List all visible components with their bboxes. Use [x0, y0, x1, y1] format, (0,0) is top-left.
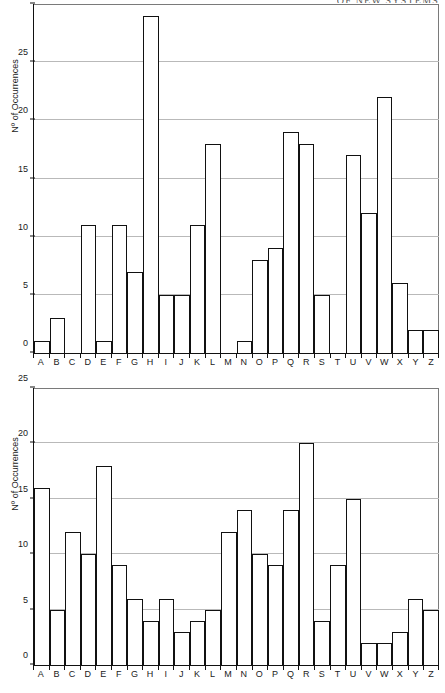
x-tick-label: O: [252, 668, 268, 680]
y-tick-label: 20: [18, 105, 28, 115]
bar-cell: [361, 4, 377, 353]
x-tick-label: J: [173, 668, 189, 680]
x-tick-label: F: [111, 668, 127, 680]
bar: [299, 144, 315, 353]
bar: [205, 610, 221, 665]
bar-cell: [299, 388, 315, 665]
bar-cell: [408, 4, 424, 353]
bar-cell: [252, 4, 268, 353]
x-tick-label: C: [64, 356, 80, 368]
x-tick-label: R: [298, 668, 314, 680]
bar-cell: [65, 4, 81, 353]
bar-cell: [81, 4, 97, 353]
bar-cell: [159, 388, 175, 665]
bar: [50, 610, 66, 665]
y-tick-label: 5: [23, 595, 28, 605]
y-tick-label: 20: [18, 428, 28, 438]
bar: [361, 213, 377, 353]
bar: [190, 225, 206, 353]
bar-series-top: [34, 4, 439, 353]
bar: [268, 248, 284, 353]
bar-cell: [423, 388, 439, 665]
bar: [127, 272, 143, 353]
x-tick-label: A: [33, 668, 49, 680]
y-tick-label: 10: [18, 222, 28, 232]
bar-cell: [112, 388, 128, 665]
x-tick-label: P: [267, 668, 283, 680]
bar-cell: [190, 388, 206, 665]
y-axis-label-bottom: Nº of Occurrences: [10, 437, 20, 510]
bar: [81, 554, 97, 665]
x-tick-label: C: [64, 668, 80, 680]
bar-cell: [330, 4, 346, 353]
x-tick-label: Z: [423, 356, 439, 368]
x-tick-label: B: [49, 668, 65, 680]
bar-cell: [50, 388, 66, 665]
bar-cell: [159, 4, 175, 353]
x-tick-label: U: [345, 668, 361, 680]
plot-area-bottom: 0510152025: [33, 388, 439, 666]
bar: [283, 132, 299, 353]
bar: [96, 466, 112, 665]
bar: [34, 341, 50, 353]
x-tick-label: M: [220, 668, 236, 680]
bar-cell: [423, 4, 439, 353]
bar: [299, 443, 315, 665]
bar: [346, 499, 362, 665]
bar-cell: [346, 4, 362, 353]
bar-cell: [283, 388, 299, 665]
x-axis-labels-bottom: ABCDEFGHIJKLMNOPQRSTUVWXYZ: [33, 668, 439, 680]
y-tick-label: 0: [23, 650, 28, 660]
bar-cell: [96, 4, 112, 353]
bar: [159, 599, 175, 665]
x-tick-label: V: [361, 356, 377, 368]
x-tick-label: S: [314, 668, 330, 680]
bar-cell: [143, 4, 159, 353]
bar: [143, 16, 159, 353]
bar: [314, 621, 330, 665]
y-tick-label: 5: [23, 280, 28, 290]
y-tick-label: 0: [23, 338, 28, 348]
bar: [377, 97, 393, 353]
bar-cell: [221, 4, 237, 353]
bar: [205, 144, 221, 353]
bar: [96, 341, 112, 353]
x-tick-label: I: [158, 668, 174, 680]
bar: [50, 318, 66, 353]
bar-cell: [237, 4, 253, 353]
bar-cell: [190, 4, 206, 353]
x-tick-label: L: [205, 356, 221, 368]
y-axis-label-top: Nº of Occurrences: [10, 59, 20, 132]
x-tick-label: A: [33, 356, 49, 368]
bar-cell: [205, 388, 221, 665]
x-tick-label: S: [314, 356, 330, 368]
bar: [112, 565, 128, 665]
bar-cell: [96, 388, 112, 665]
bar: [408, 599, 424, 665]
x-tick-label: E: [95, 356, 111, 368]
bar-cell: [127, 4, 143, 353]
bar: [392, 283, 408, 353]
bar-cell: [392, 388, 408, 665]
bar: [252, 554, 268, 665]
bar: [423, 330, 439, 353]
x-tick-label: D: [80, 356, 96, 368]
plot-frame-top: 051015202530: [33, 4, 439, 354]
bar: [314, 295, 330, 353]
y-tick-label: 25: [18, 47, 28, 57]
bar-cell: [314, 4, 330, 353]
bar-cell: [112, 4, 128, 353]
bar: [127, 599, 143, 665]
plot-frame-bottom: 0510152025: [33, 388, 439, 666]
bar-cell: [127, 388, 143, 665]
bar: [81, 225, 97, 353]
x-tick-label: X: [392, 356, 408, 368]
x-tick-label: P: [267, 356, 283, 368]
y-tick-label: 15: [18, 164, 28, 174]
bar-cell: [268, 4, 284, 353]
plot-area-top: 051015202530: [33, 4, 439, 354]
x-axis-labels-top: ABCDEFGHIJKLMNOPQRSTUVWXYZ: [33, 356, 439, 368]
bar: [408, 330, 424, 353]
x-tick-label: K: [189, 668, 205, 680]
x-tick-label: U: [345, 356, 361, 368]
